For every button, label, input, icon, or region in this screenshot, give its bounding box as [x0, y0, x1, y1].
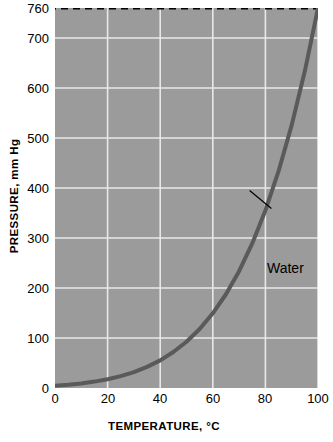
x-tick-label: 40: [140, 392, 180, 405]
series-line-water: [55, 8, 318, 386]
y-tick-label: 700: [5, 32, 49, 45]
x-tick-label: 0: [35, 392, 75, 405]
y-tick-label: 100: [5, 332, 49, 345]
x-tick-label: 100: [298, 392, 333, 405]
y-tick-label: 760: [5, 2, 49, 15]
y-tick-label: 600: [5, 82, 49, 95]
series-annotation-water: Water: [267, 260, 304, 276]
plot-area: [55, 8, 318, 388]
x-tick-label: 60: [193, 392, 233, 405]
x-tick-label: 20: [88, 392, 128, 405]
plot-svg: [55, 8, 318, 388]
gridlines: [55, 8, 318, 388]
x-tick-label: 80: [245, 392, 285, 405]
x-axis-title: TEMPERATURE, °C: [0, 420, 328, 432]
y-axis-title: PRESSURE, mm Hg: [8, 96, 20, 296]
